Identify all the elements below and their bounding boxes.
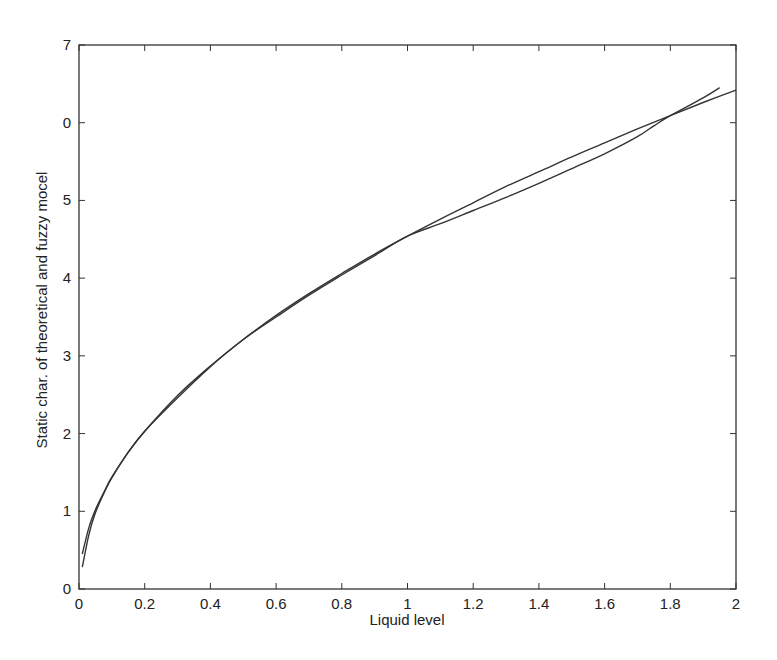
plot-area: [79, 45, 736, 589]
line-chart: 00.20.40.60.811.21.41.61.82 01234507 Liq…: [0, 0, 777, 660]
y-tick-label: 7: [63, 36, 71, 53]
y-tick-label: 4: [63, 269, 71, 286]
x-tick-label: 0.6: [266, 595, 287, 612]
y-tick-label: 1: [63, 502, 71, 519]
y-axis-label: Static char. of theoretical and fuzzy mo…: [33, 172, 50, 449]
x-axis-label: Liquid level: [369, 611, 444, 628]
x-tick-label: 0.2: [134, 595, 155, 612]
x-tick-label: 0.8: [331, 595, 352, 612]
x-tick-label: 0: [75, 595, 83, 612]
x-tick-label: 1.6: [594, 595, 615, 612]
y-tick-label: 2: [63, 425, 71, 442]
x-tick-label: 1.8: [660, 595, 681, 612]
x-tick-label: 1: [403, 595, 411, 612]
x-tick-label: 2: [732, 595, 740, 612]
y-tick-label: 0: [63, 580, 71, 597]
y-tick-label: 0: [63, 114, 71, 131]
x-tick-label: 1.2: [463, 595, 484, 612]
x-tick-label: 1.4: [528, 595, 549, 612]
y-tick-label: 5: [63, 191, 71, 208]
x-tick-label: 0.4: [200, 595, 221, 612]
y-tick-label: 3: [63, 347, 71, 364]
